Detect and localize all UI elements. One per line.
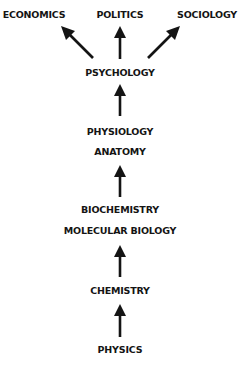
label-biochemistry: BIOCHEMISTRY: [81, 204, 159, 215]
label-anatomy: ANATOMY: [94, 146, 146, 157]
arrow-psychology-to-economics: [61, 26, 93, 58]
label-molecular-biology: MOLECULAR BIOLOGY: [64, 225, 177, 236]
arrow-psychology-to-politics: [114, 26, 126, 59]
arrow-physiology-to-psychology: [114, 84, 126, 116]
label-chemistry: CHEMISTRY: [90, 285, 150, 296]
arrow-physics-to-chemistry: [114, 304, 126, 337]
label-physics: PHYSICS: [98, 344, 143, 355]
label-physiology: PHYSIOLOGY: [87, 126, 154, 137]
science-hierarchy-diagram: ECONOMICS POLITICS SOCIOLOGY PSYCHOLOGY …: [0, 0, 243, 365]
label-sociology: SOCIOLOGY: [177, 9, 237, 20]
arrow-psychology-to-sociology: [148, 26, 180, 58]
arrow-chemistry-to-biochemistry: [114, 245, 126, 277]
label-politics: POLITICS: [96, 9, 143, 20]
arrow-biochemistry-to-physiology: [114, 165, 126, 197]
label-psychology: PSYCHOLOGY: [85, 67, 155, 78]
label-economics: ECONOMICS: [3, 9, 66, 20]
